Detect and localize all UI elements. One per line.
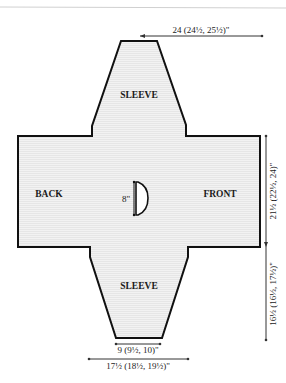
upper-arm-width-label: 17½ (18½, 19½)": [106, 361, 170, 371]
sleeve-top-label: SLEEVE: [120, 90, 158, 100]
neck-depth-label: 8": [122, 194, 131, 204]
front-label: FRONT: [203, 189, 237, 199]
top-width-label: 24 (24½, 25½)": [173, 25, 230, 35]
top-rule: [0, 7, 286, 8]
sleeve-bottom-label: SLEEVE: [120, 281, 158, 291]
body-length-label: 21½ (22½, 24)": [268, 162, 278, 219]
back-label: BACK: [35, 189, 63, 199]
sleeve-length-label: 16½ (16½, 17½)": [268, 262, 278, 326]
sweater-schematic: SLEEVE BACK FRONT SLEEVE 24 (24½, 25½)" …: [0, 0, 286, 383]
cuff-width-label: 9 (9½, 10)": [117, 345, 158, 355]
